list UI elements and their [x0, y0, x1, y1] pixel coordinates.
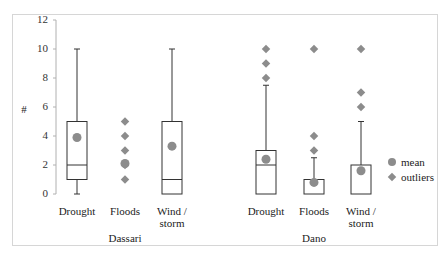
x-label-dano-wind-line1: Wind / — [336, 205, 386, 217]
box — [162, 122, 182, 195]
outlier-marker — [310, 45, 318, 53]
y-tick-label: 0 — [28, 188, 48, 199]
box — [67, 122, 87, 180]
legend-item-mean: mean — [388, 156, 425, 168]
outlier-marker — [310, 132, 318, 140]
x-label-dassari-wind-line1: Wind / — [147, 205, 197, 217]
y-tick-label: 12 — [28, 14, 48, 25]
x-label-dassari-wind-line2: storm — [147, 217, 197, 229]
x-label-dassari-drought: Drought — [52, 205, 102, 217]
outlier-marker — [357, 103, 365, 111]
outlier-marker — [121, 132, 129, 140]
x-label-dano-drought: Drought — [241, 205, 291, 217]
mean-marker — [262, 155, 271, 164]
y-tick-label: 8 — [28, 72, 48, 83]
circle-icon — [388, 158, 396, 166]
mean-marker — [357, 166, 366, 175]
outlier-marker — [121, 175, 129, 183]
outlier-marker — [357, 45, 365, 53]
outlier-marker — [262, 59, 270, 67]
diamond-icon — [388, 173, 396, 181]
mean-marker — [73, 133, 82, 142]
mean-marker — [168, 142, 177, 151]
legend-label-mean: mean — [401, 156, 425, 168]
outlier-marker — [262, 45, 270, 53]
y-tick-label: 10 — [28, 43, 48, 54]
outlier-marker — [121, 117, 129, 125]
outlier-marker — [121, 146, 129, 154]
outlier-marker — [310, 146, 318, 154]
mean-marker — [310, 178, 319, 187]
group-label-dano: Dano — [289, 232, 339, 244]
outlier-marker — [262, 74, 270, 82]
x-label-dano-floods: Floods — [289, 205, 339, 217]
legend-item-outliers: outliers — [388, 171, 434, 183]
legend-label-outliers: outliers — [401, 171, 434, 183]
group-label-dassari: Dassari — [100, 232, 150, 244]
y-tick-label: 4 — [28, 130, 48, 141]
mean-marker — [121, 159, 130, 168]
y-tick-label: 2 — [28, 159, 48, 170]
x-label-dano-wind-line2: storm — [336, 217, 386, 229]
y-tick-label: 6 — [28, 101, 48, 112]
x-label-dassari-floods: Floods — [100, 205, 150, 217]
outlier-marker — [357, 88, 365, 96]
